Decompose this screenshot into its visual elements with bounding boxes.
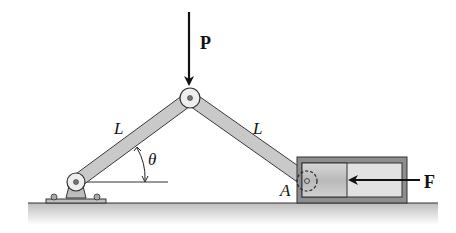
pin-support: [46, 173, 106, 203]
top-pin: [180, 88, 200, 108]
point-a-label: A: [279, 181, 291, 200]
left-link: [73, 92, 193, 188]
right-link: [187, 92, 311, 186]
force-f-label: F: [424, 172, 435, 192]
right-link-label: L: [252, 119, 262, 138]
load-p-label: P: [200, 33, 211, 53]
angle-arc: [137, 148, 145, 180]
piston: [302, 163, 347, 197]
toggle-linkage-diagram: P F L L θ A: [0, 0, 456, 233]
left-link-label: L: [113, 119, 123, 138]
angle-theta-label: θ: [148, 150, 156, 169]
ground: [28, 203, 438, 225]
